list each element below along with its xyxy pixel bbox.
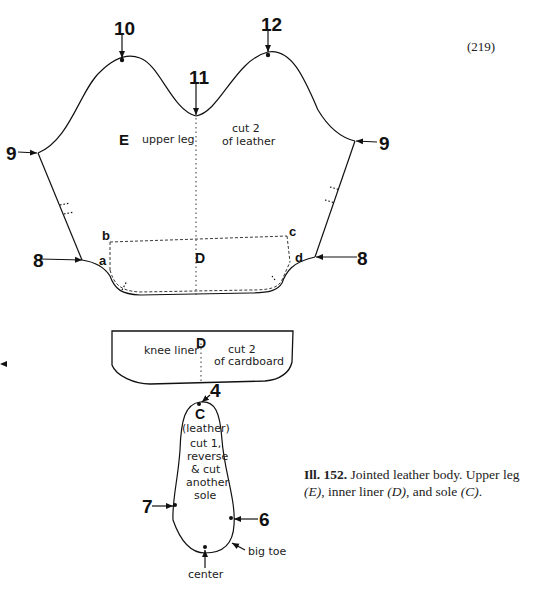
sole-instruction-2: reverse bbox=[187, 450, 229, 463]
upper-leg-left-side bbox=[38, 153, 82, 260]
point-label-8-left: 8 bbox=[33, 250, 44, 271]
big-toe-label: big toe bbox=[248, 545, 287, 558]
sole-instruction-4: another bbox=[186, 476, 229, 489]
sole-instruction-3: & cut bbox=[191, 463, 221, 476]
caption-ref-e: (E) bbox=[304, 484, 321, 499]
point-label-a: a bbox=[99, 253, 107, 268]
knee-liner-instruction-2: of cardboard bbox=[214, 355, 284, 368]
knee-liner-name: knee liner bbox=[144, 344, 199, 357]
caption-ill-label: Ill. 152. bbox=[304, 467, 347, 482]
upper-leg-center-letter-d: D bbox=[195, 250, 205, 266]
point-label-7: 7 bbox=[142, 496, 153, 517]
caption-text-3: , and sole bbox=[406, 484, 461, 499]
point-label-c: c bbox=[289, 224, 296, 239]
pattern-diagram: 10 12 11 9 9 8 8 E upper leg cut 2 of le… bbox=[0, 0, 534, 596]
upper-leg-point-dots bbox=[120, 53, 270, 62]
upper-leg-instruction-2: of leather bbox=[222, 135, 276, 148]
caption-ref-c: (C) bbox=[461, 484, 479, 499]
caption-ref-d: (D) bbox=[387, 484, 406, 499]
sole-letter-c: C bbox=[195, 406, 205, 422]
upper-leg-instruction-1: cut 2 bbox=[232, 122, 260, 135]
point-label-d: d bbox=[295, 250, 303, 265]
upper-leg-right-side bbox=[315, 141, 355, 257]
point-label-9-left: 9 bbox=[6, 143, 17, 164]
sole-material: (leather) bbox=[182, 422, 230, 435]
point-label-b: b bbox=[102, 228, 110, 243]
point-label-10: 10 bbox=[114, 18, 135, 39]
point-label-6: 6 bbox=[259, 509, 270, 530]
point-label-12: 12 bbox=[261, 14, 282, 35]
figure-caption: Ill. 152. Jointed leather body. Upper le… bbox=[304, 466, 529, 500]
caption-text-1: Jointed leather body. Upper leg bbox=[347, 467, 519, 482]
piece-letter-e: E bbox=[119, 131, 129, 148]
caption-text-2: , inner liner bbox=[321, 484, 387, 499]
sole-instruction-5: sole bbox=[194, 489, 217, 502]
point-label-9-right: 9 bbox=[379, 133, 390, 154]
sole-instruction-1: cut 1, bbox=[190, 437, 221, 450]
point-label-11: 11 bbox=[189, 67, 210, 88]
point-label-8-right: 8 bbox=[357, 248, 368, 269]
knee-liner-letter-d: D bbox=[196, 335, 206, 351]
upper-leg-name: upper leg bbox=[142, 133, 195, 146]
center-label: center bbox=[188, 568, 224, 581]
point-label-4: 4 bbox=[210, 380, 221, 401]
caption-text-4: . bbox=[479, 484, 482, 499]
